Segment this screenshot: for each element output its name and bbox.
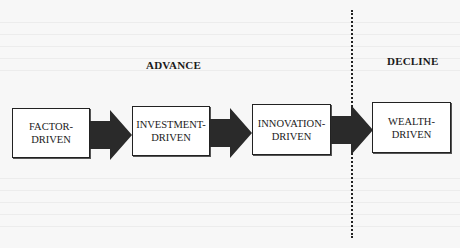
stage-label-line1: WEALTH- — [388, 115, 435, 128]
stage-box-investment-driven: INVESTMENT- DRIVEN — [132, 106, 210, 156]
stage-label-line2: DRIVEN — [258, 130, 325, 143]
arrow-right-icon — [331, 103, 373, 157]
stage-label-line1: INNOVATION- — [258, 117, 325, 130]
phase-label-advance: ADVANCE — [146, 59, 201, 71]
stage-label-line2: DRIVEN — [136, 131, 206, 144]
arrow-right-icon — [90, 108, 132, 162]
stage-label-line2: DRIVEN — [388, 128, 435, 141]
stage-label-line1: FACTOR- — [29, 120, 73, 133]
stage-label-line1: INVESTMENT- — [136, 118, 206, 131]
stage-box-innovation-driven: INNOVATION- DRIVEN — [252, 104, 331, 155]
stage-box-factor-driven: FACTOR- DRIVEN — [12, 108, 90, 158]
phase-label-decline: DECLINE — [387, 55, 439, 67]
arrow-right-icon — [210, 106, 252, 160]
stage-label-line2: DRIVEN — [29, 133, 73, 146]
stage-box-wealth-driven: WEALTH- DRIVEN — [372, 102, 451, 153]
